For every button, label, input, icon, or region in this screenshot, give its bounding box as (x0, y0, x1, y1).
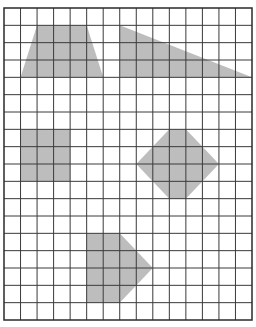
trapezoid-shape (21, 25, 104, 77)
grid-diagram (0, 0, 256, 327)
square-shape (21, 129, 71, 181)
